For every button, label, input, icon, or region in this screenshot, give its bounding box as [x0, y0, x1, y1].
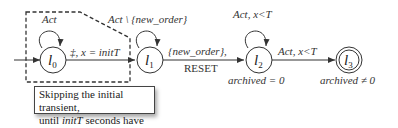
- loop-label-l1: Act \ {new_order}: [107, 13, 188, 25]
- transient-note: Skipping the initial transient, until in…: [34, 86, 155, 114]
- transition-label-l2-l3: Act, x<T: [277, 45, 317, 57]
- state-l1: l1: [136, 31, 163, 73]
- transition-label-bottom-l1-l2: RESET: [184, 62, 218, 74]
- transition-label-top-l1-l2: {new_order},: [168, 45, 227, 57]
- note-line-1: Skipping the initial transient,: [39, 88, 150, 114]
- annotation-l3: archived ≠ 0: [320, 74, 376, 86]
- self-loop-l2: [245, 31, 266, 48]
- note-line-2: until initT seconds have passed.: [39, 114, 150, 128]
- annotation-l2: archived = 0: [228, 74, 285, 86]
- self-loop-l1: [136, 31, 157, 48]
- state-l2: l2: [245, 31, 272, 73]
- loop-label-l2: Act, x<T: [232, 8, 272, 20]
- state-l0: l0: [39, 31, 66, 73]
- transition-label-l0-l1: ‡, x = initT: [70, 46, 120, 58]
- loop-label-l0: Act: [41, 13, 58, 25]
- self-loop-l0: [39, 31, 60, 48]
- state-l3: l3: [336, 47, 362, 73]
